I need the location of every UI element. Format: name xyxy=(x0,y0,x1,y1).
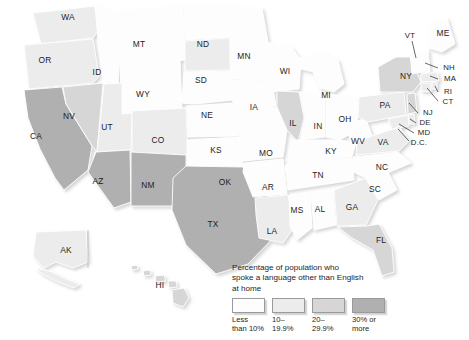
state-label-MA: MA xyxy=(444,74,457,83)
state-AK-aleutians xyxy=(36,268,80,288)
legend-item-0: Less than 10% xyxy=(232,298,265,334)
legend-swatch-20-29 xyxy=(312,298,345,313)
state-label-IL: IL xyxy=(289,118,297,128)
legend-title: Percentage of population who spoke a lan… xyxy=(232,263,412,294)
state-label-AZ: AZ xyxy=(92,176,103,186)
state-label-MI: MI xyxy=(321,90,331,100)
leader-CT xyxy=(427,88,438,101)
state-ND xyxy=(184,5,231,40)
state-label-OH: OH xyxy=(339,114,352,124)
state-MN xyxy=(230,6,268,80)
state-label-RI: RI xyxy=(444,87,452,96)
state-label-CO: CO xyxy=(152,135,165,145)
legend-item-3: 30% or more xyxy=(352,298,385,334)
state-label-WI: WI xyxy=(280,66,291,76)
state-MT xyxy=(110,5,185,66)
state-label-WY: WY xyxy=(136,89,150,99)
state-label-CA: CA xyxy=(30,131,42,141)
state-label-DE: DE xyxy=(419,118,430,127)
state-label-MS: MS xyxy=(291,205,304,215)
state-label-ID: ID xyxy=(93,67,102,77)
legend-label-less-than-10: Less than 10% xyxy=(232,316,264,334)
state-NJ xyxy=(407,93,417,114)
state-label-WA: WA xyxy=(61,12,75,22)
state-label-CT: CT xyxy=(443,97,454,106)
state-label-IA: IA xyxy=(250,102,259,112)
state-label-NE: NE xyxy=(201,110,213,120)
state-label-NH: NH xyxy=(443,63,455,72)
state-label-KS: KS xyxy=(210,145,222,155)
state-label-ND: ND xyxy=(197,39,210,49)
state-CO xyxy=(132,108,188,157)
state-MI xyxy=(300,52,344,92)
state-label-UT: UT xyxy=(101,122,113,132)
legend-label-20-29: 20– 29.9% xyxy=(312,316,334,334)
legend-label-30-or-more: 30% or more xyxy=(352,316,376,334)
legend-swatch-less-than-10 xyxy=(232,298,265,313)
state-label-NM: NM xyxy=(141,180,154,190)
state-OR xyxy=(24,39,99,89)
state-WY xyxy=(120,61,182,114)
state-label-MD: MD xyxy=(418,128,431,137)
state-label-HI: HI xyxy=(156,280,165,290)
legend-item-2: 20– 29.9% xyxy=(312,298,345,334)
state-label-VA: VA xyxy=(378,137,389,147)
legend-swatch-30-or-more xyxy=(352,298,385,313)
state-label-AR: AR xyxy=(262,182,274,192)
legend-scale: Less than 10% 10– 19.9% 20– 29.9% 30% or… xyxy=(232,298,412,334)
state-label-LA: LA xyxy=(267,226,278,236)
state-label-SC: SC xyxy=(369,184,381,194)
state-label-NY: NY xyxy=(400,71,412,81)
state-label-NV: NV xyxy=(63,111,75,121)
state-label-SD: SD xyxy=(195,75,207,85)
us-language-map-figure: WAORCANVIDMTWYUTAZNMCONDSDNEKSOKTXMNIAMO… xyxy=(0,0,469,340)
state-label-NC: NC xyxy=(376,162,389,172)
state-label-WV: WV xyxy=(351,136,365,146)
map-legend: Percentage of population who spoke a lan… xyxy=(232,263,412,334)
state-label-MN: MN xyxy=(237,51,250,61)
state-label-OK: OK xyxy=(219,177,232,187)
state-MS xyxy=(289,193,312,240)
state-label-OR: OR xyxy=(39,55,52,65)
state-HI-island-2 xyxy=(143,270,151,276)
state-label-AL: AL xyxy=(315,204,326,214)
state-label-TX: TX xyxy=(207,219,218,229)
state-label-MO: MO xyxy=(259,148,273,158)
state-label-MT: MT xyxy=(133,39,146,49)
state-label-ME: ME xyxy=(437,28,450,38)
state-label-FL: FL xyxy=(376,235,386,245)
state-label-NJ: NJ xyxy=(423,108,433,117)
state-HI-island-1 xyxy=(131,265,138,270)
state-label-IN: IN xyxy=(314,121,323,131)
state-MA xyxy=(421,72,439,82)
state-label-KY: KY xyxy=(325,146,337,156)
state-label-GA: GA xyxy=(346,202,359,212)
state-NE xyxy=(182,71,233,104)
state-label-TN: TN xyxy=(312,170,324,180)
state-label-VT: VT xyxy=(405,31,415,40)
legend-label-10-19: 10– 19.9% xyxy=(272,316,294,334)
state-NH xyxy=(420,49,430,73)
state-HI-island-big xyxy=(172,288,189,307)
state-label-AK: AK xyxy=(60,245,72,255)
legend-swatch-10-19 xyxy=(272,298,305,313)
state-label-DC: D.C. xyxy=(411,138,427,147)
state-HI-island-4 xyxy=(168,281,177,288)
legend-item-1: 10– 19.9% xyxy=(272,298,305,334)
state-DC xyxy=(396,126,401,131)
state-label-PA: PA xyxy=(380,100,391,110)
